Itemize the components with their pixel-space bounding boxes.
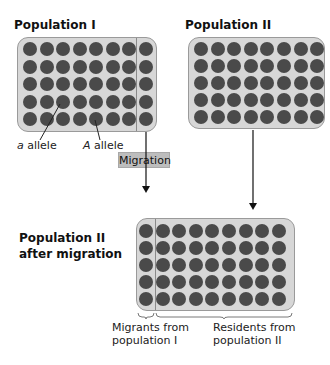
residents-brace [156, 313, 292, 319]
a-allele-pointer [40, 104, 60, 140]
migration-arrowhead [142, 186, 150, 193]
connectors [0, 0, 330, 365]
population-2-arrowhead [249, 203, 257, 210]
migrants-brace [138, 313, 154, 319]
A-allele-pointer [95, 120, 100, 140]
